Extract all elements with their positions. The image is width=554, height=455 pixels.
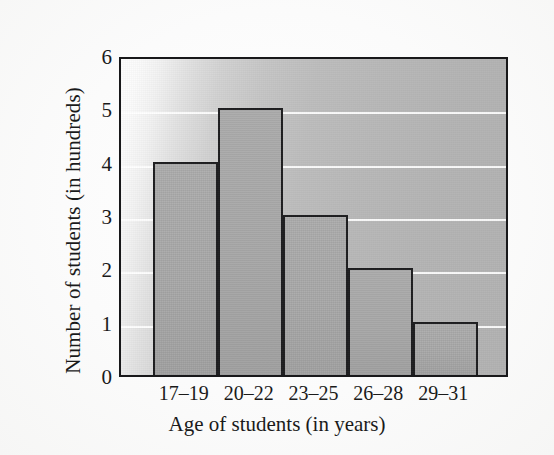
bar-grain-overlay — [285, 217, 346, 375]
x-tick-label: 17–19 — [159, 382, 209, 405]
x-axis-title: Age of students (in years) — [0, 412, 554, 437]
y-tick-label: 5 — [88, 98, 112, 123]
x-axis-tick-labels: 17–1920–2223–2526–2829–31 — [119, 382, 508, 410]
y-tick-label: 6 — [88, 45, 112, 70]
bar-grain-overlay — [350, 270, 411, 375]
plot-area — [119, 57, 508, 377]
bar — [153, 162, 218, 375]
x-tick-label: 29–31 — [418, 382, 468, 405]
y-tick-label: 1 — [88, 311, 112, 336]
x-tick-label: 20–22 — [224, 382, 274, 405]
y-tick-label: 3 — [88, 205, 112, 230]
y-tick-label: 4 — [88, 151, 112, 176]
bar — [218, 108, 283, 375]
y-axis-title: Number of students (in hundreds) — [61, 66, 86, 396]
y-axis-tick-labels: 0123456 — [88, 57, 112, 377]
chart-page: Number of students (in hundreds) 0123456… — [0, 0, 554, 455]
y-tick-label: 2 — [88, 258, 112, 283]
gridline — [121, 112, 506, 114]
bar — [348, 268, 413, 375]
x-tick-label: 23–25 — [289, 382, 339, 405]
x-tick-label: 26–28 — [353, 382, 403, 405]
bar — [413, 322, 478, 375]
bar-grain-overlay — [155, 164, 216, 375]
y-tick-label: 0 — [88, 365, 112, 390]
bar-grain-overlay — [415, 324, 476, 375]
bar-grain-overlay — [220, 110, 281, 375]
bar — [283, 215, 348, 375]
